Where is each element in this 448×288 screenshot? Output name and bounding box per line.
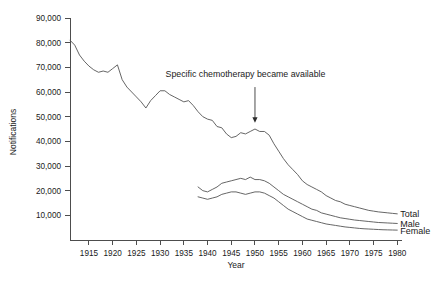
series-line-female (198, 192, 397, 230)
series-line-male (198, 177, 397, 223)
x-tick-label: 1980 (388, 249, 407, 258)
line-chart: 10,00020,00030,00040,00050,00060,00070,0… (0, 0, 448, 288)
y-tick-label: 50,000 (36, 113, 61, 122)
y-tick-label: 70,000 (36, 63, 61, 72)
x-tick-label: 1935 (175, 249, 194, 258)
x-tick-label: 1970 (341, 249, 360, 258)
y-tick-label: 20,000 (36, 187, 61, 196)
x-tick-label: 1955 (270, 249, 289, 258)
y-tick-label: 60,000 (36, 88, 61, 97)
x-tick-label: 1960 (293, 249, 312, 258)
x-axis-ticks: 1915192019251930193519401945195019551960… (80, 240, 407, 258)
x-axis-title: Year (227, 260, 244, 270)
y-tick-label: 80,000 (36, 39, 61, 48)
x-tick-label: 1950 (246, 249, 265, 258)
annotation-arrow-head (252, 117, 257, 123)
y-tick-label: 90,000 (36, 14, 61, 23)
x-tick-label: 1925 (127, 249, 146, 258)
x-tick-label: 1915 (80, 249, 99, 258)
series-label-total: Total (400, 209, 419, 219)
series-label-female: Female (400, 226, 430, 236)
y-tick-label: 30,000 (36, 162, 61, 171)
y-tick-label: 40,000 (36, 137, 61, 146)
x-tick-label: 1975 (364, 249, 383, 258)
series-line-total (70, 40, 397, 214)
chart-container: 10,00020,00030,00040,00050,00060,00070,0… (0, 0, 448, 288)
x-tick-label: 1920 (104, 249, 123, 258)
x-tick-label: 1945 (222, 249, 241, 258)
annotation-label: Specific chemotherapy became available (166, 69, 326, 79)
y-axis-title: Notifications (8, 109, 18, 155)
x-tick-label: 1965 (317, 249, 336, 258)
series-inline-labels: TotalMaleFemale (400, 209, 430, 235)
x-tick-label: 1940 (198, 249, 217, 258)
y-tick-label: 10,000 (36, 211, 61, 220)
y-axis-ticks: 10,00020,00030,00040,00050,00060,00070,0… (36, 14, 70, 220)
x-tick-label: 1930 (151, 249, 170, 258)
chart-annotation: Specific chemotherapy became available (166, 69, 326, 123)
